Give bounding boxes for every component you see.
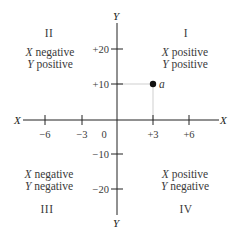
y-axis-label-top: Y <box>113 10 121 22</box>
y-tick-label: +10 <box>93 79 109 90</box>
quadrant-i-numeral: I <box>184 27 188 39</box>
x-tick-label: −3 <box>76 129 87 140</box>
quadrant-ii-y-desc: Y positive <box>27 58 73 71</box>
quadrant-iii-y-desc: Y negative <box>25 180 73 193</box>
coordinate-plane: X X Y Y −6 −3 0 +3 +6 +20 +10 −10 −20 a … <box>0 0 241 238</box>
y-tick-label: −20 <box>93 184 109 195</box>
quadrant-i-y-desc: Y positive <box>162 58 208 71</box>
quadrant-ii-numeral: II <box>45 27 54 39</box>
y-tick-label: −10 <box>93 149 109 160</box>
quadrant-iv-numeral: IV <box>179 203 192 215</box>
y-tick-label: +20 <box>93 44 109 55</box>
x-axis-label-left: X <box>13 114 22 126</box>
quadrant-iv-y-desc: Y negative <box>161 180 209 193</box>
x-tick-label: +6 <box>183 129 194 140</box>
point-a-label: a <box>159 78 165 90</box>
point-a-marker <box>150 81 156 87</box>
origin-label: 0 <box>101 129 106 140</box>
x-axis-label-right: X <box>219 114 228 126</box>
x-tick-label: +3 <box>147 129 158 140</box>
y-axis-label-bottom: Y <box>113 217 121 229</box>
x-tick-label: −6 <box>39 129 50 140</box>
quadrant-iii-numeral: III <box>41 203 54 215</box>
